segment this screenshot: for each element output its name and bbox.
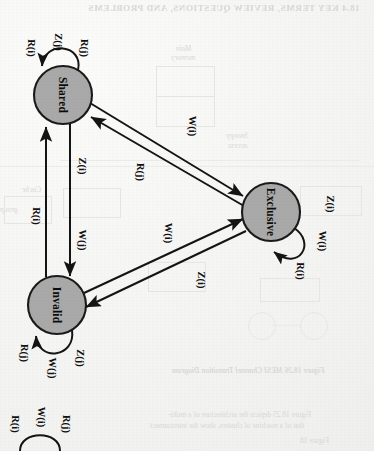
label-invalid-to-exclusive: W(i) <box>162 223 174 244</box>
label-shared-to-exclusive: W(i) <box>186 116 198 137</box>
label-shared-to-invalid-z: Z(i) <box>76 158 88 175</box>
edge-shared-to-exclusive <box>90 103 243 196</box>
label-invalid-loop-wj: W(j) <box>46 358 58 379</box>
label-partial-loop-ri: R(i) <box>9 415 21 433</box>
edge-exclusive-to-shared <box>91 117 244 206</box>
loop-partial-offpage <box>20 435 60 451</box>
label-partial-loop-rj: R(j) <box>60 415 72 434</box>
label-invalid-to-shared: R(i) <box>30 207 42 225</box>
state-label-exclusive: Exclusive <box>265 188 277 236</box>
label-invalid-loop-rj: R(j) <box>18 344 30 363</box>
scanned-page: 18.4 KEY TERMS, REVIEW QUESTIONS, AND PR… <box>0 0 374 451</box>
label-exclusive-loop-ri: R(i) <box>294 262 306 280</box>
state-transition-diagram: Shared Exclusive Invalid R(i) Z(j) R(j) … <box>0 0 374 451</box>
state-label-shared: Shared <box>57 77 69 114</box>
label-invalid-loop-zj: Z(j) <box>74 349 86 367</box>
label-shared-loop-ri: R(i) <box>25 39 37 57</box>
label-exclusive-loop-zi: Z(i) <box>324 196 336 213</box>
label-exclusive-to-shared: R(j) <box>134 163 146 182</box>
label-exclusive-to-invalid: Z(i) <box>195 272 207 289</box>
label-exclusive-loop-wi: W(i) <box>316 231 328 252</box>
label-partial-loop-wi: W(i) <box>35 407 47 428</box>
label-shared-loop-rj: R(j) <box>78 39 90 58</box>
label-shared-to-invalid-w: W(j) <box>76 230 88 251</box>
label-shared-loop-zj: Z(j) <box>52 33 64 51</box>
state-label-invalid: Invalid <box>51 287 63 324</box>
